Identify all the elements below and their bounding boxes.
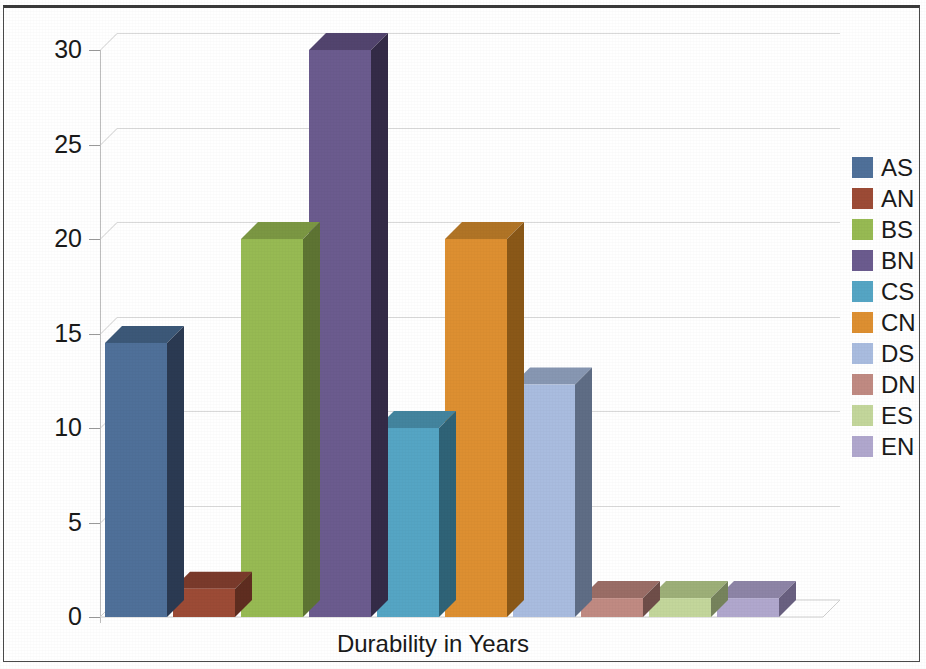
chart-legend: ASANBSBNCSCNDSDNESEN [852, 152, 922, 462]
legend-label: CN [881, 311, 916, 335]
legend-item-as[interactable]: AS [852, 152, 922, 183]
legend-item-ds[interactable]: DS [852, 338, 922, 369]
legend-item-an[interactable]: AN [852, 183, 922, 214]
legend-label: CS [881, 280, 914, 304]
legend-swatch-icon [852, 436, 873, 457]
legend-swatch-icon [852, 188, 873, 209]
legend-label: BS [881, 218, 913, 242]
x-axis-title: Durability in Years [0, 630, 926, 658]
x-axis-title-text: Durability in Years [337, 630, 529, 658]
bar-side-face [167, 326, 184, 617]
legend-item-bs[interactable]: BS [852, 214, 922, 245]
bar-as[interactable] [0, 0, 926, 669]
legend-item-dn[interactable]: DN [852, 369, 922, 400]
legend-label: EN [881, 435, 914, 459]
legend-swatch-icon [852, 281, 873, 302]
legend-swatch-icon [852, 219, 873, 240]
legend-item-en[interactable]: EN [852, 431, 922, 462]
chart-page: 051015202530 ASANBSBNCSCNDSDNESEN Durabi… [0, 0, 926, 669]
legend-item-es[interactable]: ES [852, 400, 922, 431]
legend-label: DN [881, 373, 916, 397]
legend-swatch-icon [852, 312, 873, 333]
legend-label: AS [881, 156, 913, 180]
legend-item-bn[interactable]: BN [852, 245, 922, 276]
legend-swatch-icon [852, 250, 873, 271]
legend-swatch-icon [852, 374, 873, 395]
legend-label: AN [881, 187, 914, 211]
legend-label: ES [881, 404, 913, 428]
bar-front-face [105, 343, 167, 617]
legend-swatch-icon [852, 405, 873, 426]
legend-item-cs[interactable]: CS [852, 276, 922, 307]
legend-label: DS [881, 342, 914, 366]
legend-item-cn[interactable]: CN [852, 307, 922, 338]
legend-label: BN [881, 249, 914, 273]
legend-swatch-icon [852, 343, 873, 364]
legend-swatch-icon [852, 157, 873, 178]
chart-plot-area: 051015202530 [0, 0, 926, 669]
